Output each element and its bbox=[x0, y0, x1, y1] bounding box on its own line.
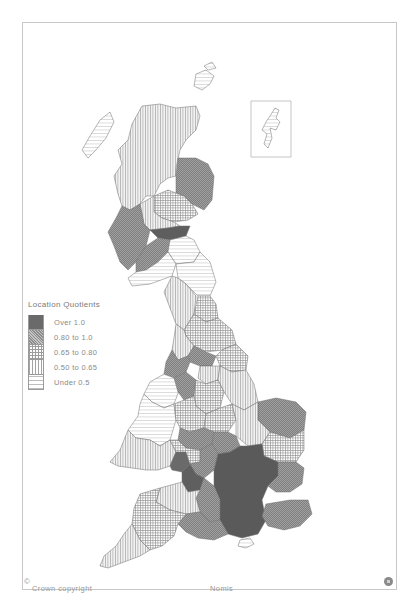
region-shetland[interactable] bbox=[262, 108, 280, 148]
legend-swatch bbox=[28, 360, 44, 375]
region-kent[interactable] bbox=[262, 500, 312, 530]
legend-label: 0.50 to 0.65 bbox=[54, 363, 97, 372]
region-western-isles[interactable] bbox=[82, 112, 114, 158]
legend: Location Quotients Over 1.0 0.80 to 1.0 … bbox=[28, 300, 100, 390]
legend-item-0-80-to-1: 0.80 to 1.0 bbox=[28, 330, 100, 345]
nomis-logo-icon bbox=[384, 577, 393, 586]
legend-title: Location Quotients bbox=[28, 300, 100, 309]
legend-label: 0.80 to 1.0 bbox=[54, 333, 93, 342]
legend-label: Under 0.5 bbox=[54, 378, 90, 387]
legend-label: Over 1.0 bbox=[54, 318, 85, 327]
legend-label: 0.65 to 0.80 bbox=[54, 348, 97, 357]
legend-swatch bbox=[28, 330, 44, 345]
copyright-icon: © bbox=[24, 577, 30, 586]
legend-swatch bbox=[28, 345, 44, 360]
region-orkney[interactable] bbox=[194, 62, 216, 90]
legend-item-0-50-to-0-65: 0.50 to 0.65 bbox=[28, 360, 100, 375]
legend-item-0-65-to-0-80: 0.65 to 0.80 bbox=[28, 345, 100, 360]
region-isle-of-wight[interactable] bbox=[238, 538, 254, 548]
copyright-text: Crown copyright bbox=[32, 584, 92, 593]
legend-item-over-1: Over 1.0 bbox=[28, 315, 100, 330]
legend-swatch bbox=[28, 375, 44, 390]
region-lincolnshire[interactable] bbox=[218, 366, 258, 410]
legend-swatch bbox=[28, 315, 44, 330]
legend-item-under-0-5: Under 0.5 bbox=[28, 375, 100, 390]
source-label: Nomis bbox=[210, 584, 233, 593]
shetland-inset-frame bbox=[251, 101, 291, 157]
